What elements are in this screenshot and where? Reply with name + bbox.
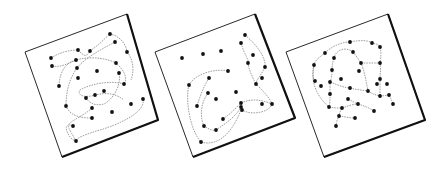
node-dot xyxy=(110,110,114,114)
node-dot xyxy=(246,61,250,65)
card-border xyxy=(25,14,158,157)
node-dot xyxy=(348,86,352,90)
node-dot xyxy=(84,96,88,100)
node-dot xyxy=(90,116,94,120)
node-dot xyxy=(378,61,382,65)
figure xyxy=(0,0,448,171)
node-dot xyxy=(312,63,316,67)
node-dot xyxy=(359,61,363,65)
node-dot xyxy=(372,109,376,113)
node-dot xyxy=(260,76,264,80)
graph-panels-canvas xyxy=(0,0,448,171)
node-dot xyxy=(57,84,61,88)
graph-panel-2 xyxy=(155,14,295,157)
node-dot xyxy=(240,108,244,112)
node-dot xyxy=(370,41,374,45)
node-dot xyxy=(113,40,117,44)
node-dot xyxy=(214,97,218,101)
node-dot xyxy=(114,61,118,65)
node-dot xyxy=(239,41,243,45)
node-dot xyxy=(234,90,238,94)
graph-panel-1 xyxy=(25,14,158,157)
node-dot xyxy=(75,66,79,70)
node-dot xyxy=(108,32,112,36)
node-dot xyxy=(129,102,133,106)
node-dot xyxy=(260,102,264,106)
graph-panel-3 xyxy=(286,14,425,157)
node-dot xyxy=(330,68,334,72)
node-dot xyxy=(334,124,338,128)
node-dot xyxy=(76,48,80,52)
node-dot xyxy=(199,140,203,144)
node-dot xyxy=(348,40,352,44)
node-dot xyxy=(71,124,75,128)
node-dot xyxy=(239,101,243,105)
node-dot xyxy=(319,84,323,88)
node-dot xyxy=(243,33,247,37)
node-dot xyxy=(385,82,389,86)
node-dot xyxy=(219,49,223,53)
node-dot xyxy=(202,124,206,128)
node-dot xyxy=(327,105,331,109)
node-dot xyxy=(64,104,68,108)
node-dot xyxy=(254,82,258,86)
node-dot xyxy=(180,56,184,60)
node-dot xyxy=(323,51,327,55)
node-dot xyxy=(49,56,53,60)
node-dot xyxy=(206,91,210,95)
node-dot xyxy=(195,104,199,108)
card-border xyxy=(286,14,425,157)
node-dot xyxy=(391,102,395,106)
node-dot xyxy=(378,77,382,81)
node-dot xyxy=(346,97,350,101)
node-dot xyxy=(117,71,121,75)
node-dot xyxy=(187,83,191,87)
node-dot xyxy=(226,69,230,73)
node-dot xyxy=(375,82,379,86)
node-dot xyxy=(351,50,355,54)
node-dot xyxy=(378,94,382,98)
node-dot xyxy=(74,139,78,143)
node-dot xyxy=(88,49,92,53)
node-dot xyxy=(95,69,99,73)
node-dot xyxy=(337,114,341,118)
node-dot xyxy=(221,117,225,121)
node-dot xyxy=(387,93,391,97)
node-dot xyxy=(332,56,336,60)
node-dot xyxy=(74,58,78,62)
node-dot xyxy=(214,128,218,132)
node-dot xyxy=(76,76,80,80)
node-dot xyxy=(313,79,317,83)
node-dot xyxy=(340,106,344,110)
node-dot xyxy=(251,53,255,57)
node-dot xyxy=(353,116,357,120)
node-dot xyxy=(90,106,94,110)
node-dot xyxy=(263,65,267,69)
node-dot xyxy=(378,45,382,49)
node-dot xyxy=(366,89,370,93)
node-dot xyxy=(339,77,343,81)
node-dot xyxy=(93,93,97,97)
node-dot xyxy=(270,102,274,106)
node-dot xyxy=(207,76,211,80)
node-dot xyxy=(122,82,126,86)
node-dot xyxy=(328,92,332,96)
node-dot xyxy=(50,64,54,68)
node-dot xyxy=(125,50,129,54)
node-dot xyxy=(141,97,145,101)
node-dot xyxy=(201,52,205,56)
node-dot xyxy=(356,102,360,106)
node-dot xyxy=(102,89,106,93)
node-dot xyxy=(328,80,332,84)
node-dot xyxy=(357,69,361,73)
